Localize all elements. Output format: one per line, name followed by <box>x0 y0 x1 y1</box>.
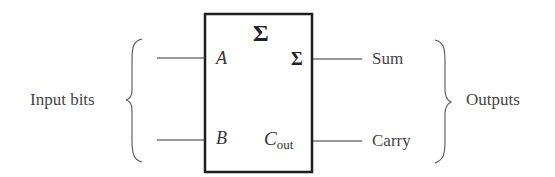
carry-pin-main: C <box>264 128 277 149</box>
sum-label: Sum <box>372 49 403 69</box>
output-carry-pin-label: Cout <box>264 128 293 150</box>
left-brace-icon <box>126 39 142 162</box>
outputs-label: Outputs <box>466 90 520 110</box>
input-a-label: A <box>216 48 227 69</box>
input-bits-label: Input bits <box>30 90 95 110</box>
carry-label: Carry <box>372 131 411 151</box>
output-sum-pin-label: Σ <box>291 49 303 70</box>
block-symbol: Σ <box>253 20 269 47</box>
right-brace-icon <box>435 40 451 163</box>
carry-pin-subscript: out <box>277 137 294 152</box>
input-b-label: B <box>216 128 227 149</box>
